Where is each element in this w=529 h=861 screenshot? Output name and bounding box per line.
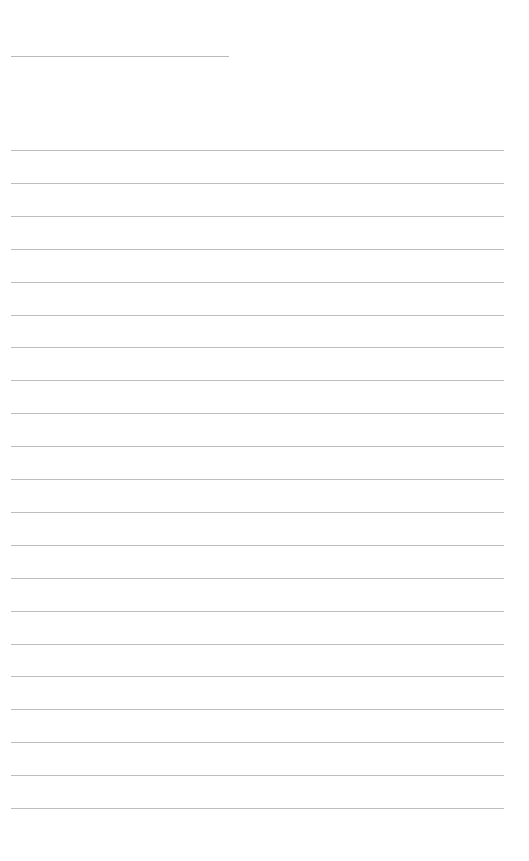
ruled-line <box>11 479 504 480</box>
ruled-line <box>11 282 504 283</box>
ruled-line <box>11 249 504 250</box>
ruled-line <box>11 512 504 513</box>
title-line <box>11 56 229 57</box>
ruled-line <box>11 808 504 809</box>
ruled-line <box>11 611 504 612</box>
ruled-line <box>11 347 504 348</box>
ruled-line <box>11 380 504 381</box>
ruled-line <box>11 676 504 677</box>
ruled-line <box>11 413 504 414</box>
ruled-line <box>11 545 504 546</box>
ruled-line <box>11 742 504 743</box>
ruled-line <box>11 709 504 710</box>
ruled-line <box>11 644 504 645</box>
ruled-line <box>11 578 504 579</box>
ruled-line <box>11 446 504 447</box>
ruled-line <box>11 183 504 184</box>
ruled-line <box>11 315 504 316</box>
ruled-line <box>11 150 504 151</box>
ruled-line <box>11 775 504 776</box>
ruled-line <box>11 216 504 217</box>
